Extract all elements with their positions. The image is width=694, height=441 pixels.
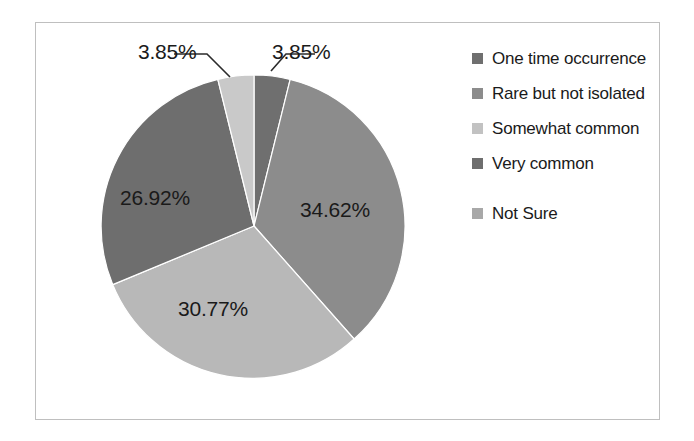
legend-item-rare-but-not-isolated[interactable]: Rare but not isolated	[472, 83, 652, 105]
legend-item-label: One time occurrence	[492, 48, 646, 70]
pie-label-somewhat-common: 30.77%	[178, 297, 248, 321]
legend-swatch-icon	[472, 208, 483, 219]
legend-item-one-time-occurrence[interactable]: One time occurrence	[472, 48, 652, 70]
pie-label-very-common: 26.92%	[120, 186, 190, 210]
plot-area: 3.85% 3.85% 34.62% 30.77% 26.92% One tim…	[0, 0, 694, 441]
legend-item-label: Somewhat common	[492, 118, 639, 140]
legend-swatch-icon	[472, 158, 483, 169]
legend-item-label: Very common	[492, 153, 594, 175]
chart-legend: One time occurrence Rare but not isolate…	[472, 48, 652, 238]
chart-screenshot: 3.85% 3.85% 34.62% 30.77% 26.92% One tim…	[0, 0, 694, 441]
legend-swatch-icon	[472, 123, 483, 134]
pie-label-one-time-occurrence: 3.85%	[272, 40, 331, 64]
pie-chart-graphic	[60, 30, 460, 410]
pie-label-rare-but-not-isolated: 34.62%	[300, 198, 370, 222]
pie-label-not-sure: 3.85%	[138, 40, 197, 64]
legend-item-label: Rare but not isolated	[492, 83, 645, 105]
legend-item-not-sure[interactable]: Not Sure	[472, 203, 652, 225]
legend-item-somewhat-common[interactable]: Somewhat common	[472, 118, 652, 140]
legend-swatch-icon	[472, 88, 483, 99]
legend-swatch-icon	[472, 53, 483, 64]
legend-item-very-common[interactable]: Very common	[472, 153, 652, 175]
legend-item-label: Not Sure	[492, 203, 558, 225]
